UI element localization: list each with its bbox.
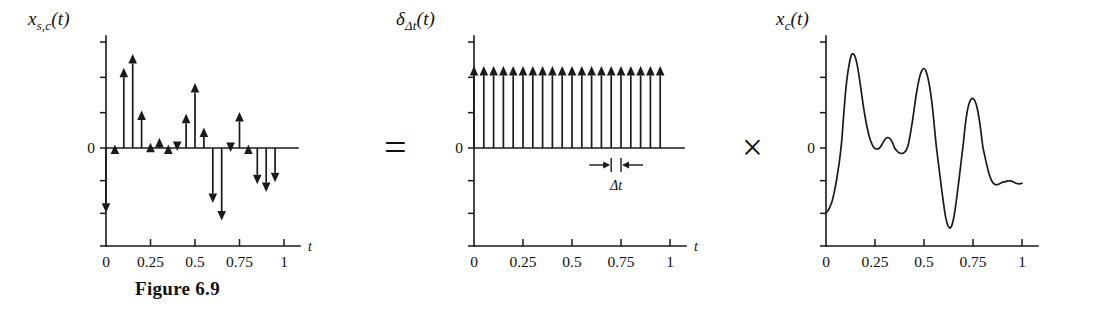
stem-arrowhead xyxy=(548,66,557,76)
middle-plot-axis-label: δΔt(t) xyxy=(396,8,435,34)
left-plot-axis-label: xs,c(t) xyxy=(28,8,70,34)
delta-t-right-arrowhead xyxy=(622,161,629,168)
equals-operator: = xyxy=(384,128,407,168)
x-axis-tick-label: 1 xyxy=(280,253,288,270)
figure-container: xs,c(t) 000.250.50.751t = δΔt(t) 000.250… xyxy=(0,0,1107,315)
left-label-main: x xyxy=(28,8,37,29)
stem-arrowhead xyxy=(209,193,218,203)
stem-arrowhead xyxy=(636,66,645,76)
figure-caption: Figure 6.9 xyxy=(135,278,220,300)
stem-arrowhead xyxy=(627,66,636,76)
stem-arrowhead xyxy=(244,145,253,155)
x-axis-tick-label: 0.5 xyxy=(562,253,582,270)
stem-arrowhead xyxy=(656,66,665,76)
delta-t-label: Δt xyxy=(609,178,623,193)
middle-label-arg: (t) xyxy=(417,8,436,29)
stem-arrowhead xyxy=(499,66,508,76)
stem-arrowhead xyxy=(200,127,209,137)
stem-arrowhead xyxy=(173,141,182,151)
middle-label-main: δ xyxy=(396,8,405,29)
stem-series xyxy=(102,54,280,221)
stem-arrowhead xyxy=(217,211,226,221)
stem-arrowhead xyxy=(128,54,137,64)
stem-arrowhead xyxy=(137,110,146,120)
stem-arrowhead xyxy=(568,66,577,76)
x-axis-name: t xyxy=(308,239,313,254)
x-axis-name: t xyxy=(694,239,699,254)
stem-arrowhead xyxy=(120,68,129,78)
right-label-main: x xyxy=(776,8,785,29)
middle-label-sub: Δt xyxy=(405,18,417,33)
stem-arrowhead xyxy=(191,83,200,93)
stem-arrowhead xyxy=(480,66,489,76)
x-axis-tick-label: 1 xyxy=(1018,253,1026,270)
stem-arrowhead xyxy=(235,112,244,122)
stem-arrowhead xyxy=(102,203,111,213)
x-axis-tick-label: 0.5 xyxy=(914,253,934,270)
stem-arrowhead xyxy=(470,66,479,76)
zero-axis-label: 0 xyxy=(87,139,95,156)
stem-arrowhead xyxy=(646,66,655,76)
x-axis-tick-label: 0 xyxy=(822,253,830,270)
x-axis-tick-label: 0.75 xyxy=(226,253,253,270)
impulse-train-plot: 000.250.50.751tΔt xyxy=(448,20,728,310)
delta-t-left-arrowhead xyxy=(603,161,610,168)
stem-arrowhead xyxy=(489,66,498,76)
times-operator: × xyxy=(742,129,763,166)
impulse-series xyxy=(470,66,665,148)
x-axis-tick-label: 0.75 xyxy=(959,253,986,270)
x-axis-tick-label: 0 xyxy=(470,253,478,270)
stem-arrowhead xyxy=(111,145,120,155)
stem-arrowhead xyxy=(155,138,164,148)
stem-arrowhead xyxy=(587,66,596,76)
x-axis-tick-label: 0.25 xyxy=(861,253,888,270)
stem-arrowhead xyxy=(597,66,606,76)
x-axis-tick-label: 0 xyxy=(102,253,110,270)
stem-arrowhead xyxy=(529,66,538,76)
stem-arrowhead xyxy=(578,66,587,76)
stem-arrowhead xyxy=(226,142,235,152)
continuous-signal-plot: 000.250.50.751 xyxy=(800,20,1080,310)
x-axis-tick-label: 1 xyxy=(666,253,674,270)
left-label-sub: s,c xyxy=(37,18,52,33)
stem-arrowhead xyxy=(262,183,271,193)
zero-axis-label: 0 xyxy=(807,139,815,156)
stem-arrowhead xyxy=(253,175,262,185)
stem-arrowhead xyxy=(509,66,518,76)
stem-arrowhead xyxy=(607,66,616,76)
x-axis-tick-label: 0.5 xyxy=(185,253,205,270)
x-axis-tick-label: 0.75 xyxy=(607,253,634,270)
delta-t-annotation: Δt xyxy=(589,158,643,193)
zero-axis-label: 0 xyxy=(455,139,463,156)
stem-arrowhead xyxy=(538,66,547,76)
stem-arrowhead xyxy=(558,66,567,76)
stem-arrowhead xyxy=(519,66,528,76)
signal-curve xyxy=(826,54,1022,228)
x-axis-tick-label: 0.25 xyxy=(137,253,164,270)
stem-arrowhead xyxy=(271,173,280,183)
sampled-signal-plot: 000.250.50.751t xyxy=(80,20,340,310)
stem-arrowhead xyxy=(182,114,191,124)
x-axis-tick-label: 0.25 xyxy=(509,253,536,270)
stem-arrowhead xyxy=(164,145,173,155)
left-label-arg: (t) xyxy=(51,8,70,29)
stem-arrowhead xyxy=(617,66,626,76)
